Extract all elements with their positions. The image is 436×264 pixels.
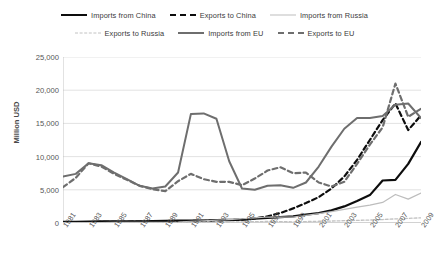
y-tick-label: 10,000 xyxy=(36,152,59,161)
legend-item-imports-from-eu: Imports from EU xyxy=(178,29,263,38)
x-axis-ticks: 1981198319851987198919911993199519971999… xyxy=(63,224,421,264)
x-tick-label: 2009 xyxy=(419,211,436,229)
y-tick-label: 15,000 xyxy=(36,119,59,128)
legend-item-exports-to-russia: Exports to Russia xyxy=(75,29,165,38)
series-line-4 xyxy=(63,103,421,189)
series-line-0 xyxy=(63,142,421,222)
legend-row-2: Exports to Russia Imports from EU Export… xyxy=(0,24,429,42)
legend-label: Exports to Russia xyxy=(105,29,165,38)
y-tick-label: 5,000 xyxy=(40,185,59,194)
legend-row-1: Imports from China Exports to China Impo… xyxy=(0,6,429,24)
chart-legend: Imports from China Exports to China Impo… xyxy=(0,6,429,44)
legend-label: Imports from Russia xyxy=(300,11,368,20)
line-swatch-icon xyxy=(278,29,304,37)
legend-item-imports-from-china: Imports from China xyxy=(61,11,156,20)
legend-label: Imports from EU xyxy=(208,29,263,38)
line-swatch-icon xyxy=(170,11,196,19)
legend-label: Exports to EU xyxy=(308,29,355,38)
line-swatch-icon xyxy=(75,29,101,37)
legend-label: Imports from China xyxy=(91,11,156,20)
series-line-1 xyxy=(63,103,421,222)
legend-item-exports-to-china: Exports to China xyxy=(170,11,256,20)
y-axis-ticks: 05,00010,00015,00020,00025,000 xyxy=(0,0,59,264)
series-line-5 xyxy=(63,84,421,192)
plot-area xyxy=(63,57,421,223)
legend-item-imports-from-russia: Imports from Russia xyxy=(270,11,368,20)
legend-item-exports-to-eu: Exports to EU xyxy=(278,29,355,38)
legend-label: Exports to China xyxy=(200,11,256,20)
plot-svg xyxy=(63,57,421,223)
y-tick-label: 25,000 xyxy=(36,53,59,62)
y-tick-label: 0 xyxy=(55,219,59,228)
line-swatch-icon xyxy=(178,29,204,37)
y-tick-label: 20,000 xyxy=(36,86,59,95)
line-swatch-icon xyxy=(61,11,87,19)
line-swatch-icon xyxy=(270,11,296,19)
